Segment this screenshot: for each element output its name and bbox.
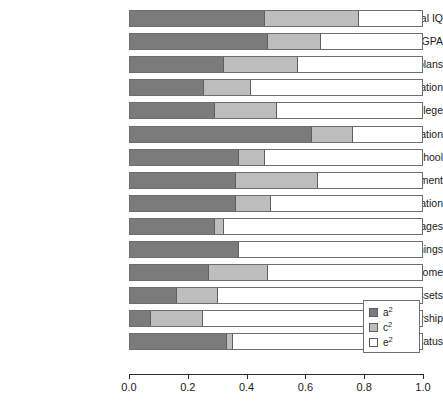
axis-tick: [188, 374, 189, 379]
bar-track: [129, 126, 423, 143]
bar-segment-c2: [268, 34, 321, 49]
legend-label: a2: [383, 308, 393, 318]
chart-legend: a2c2e2: [363, 300, 420, 353]
bar-segment-a2: [130, 103, 215, 118]
bar-track: [129, 149, 423, 166]
bar-segment-a2: [130, 334, 227, 349]
bar-segment-c2: [236, 173, 318, 188]
legend-label: e2: [383, 338, 393, 348]
bar-segment-a2: [130, 34, 268, 49]
bar-segment-a2: [130, 127, 312, 142]
bar-row: [129, 195, 423, 212]
bar-row: [129, 33, 423, 50]
bar-segment-c2: [239, 150, 265, 165]
bar-segment-a2: [130, 242, 239, 257]
bar-track: [129, 264, 423, 281]
bar-row: [129, 102, 423, 119]
axis-caption: [0, 402, 443, 412]
bar-row: [129, 56, 423, 73]
bar-segment-a2: [130, 173, 236, 188]
axis-tick-label: 0.6: [298, 381, 313, 393]
bar-segment-a2: [130, 196, 236, 211]
bar-row: [129, 10, 423, 27]
bar-track: [129, 10, 423, 27]
axis-tick: [423, 374, 424, 379]
x-axis-line: [129, 374, 423, 375]
legend-swatch-a2: [369, 308, 378, 317]
axis-tick: [129, 374, 130, 379]
bar-segment-a2: [130, 11, 265, 26]
bar-row: [129, 241, 423, 258]
bar-segment-c2: [177, 288, 218, 303]
bar-row: [129, 126, 423, 143]
bar-track: [129, 102, 423, 119]
bar-track: [129, 33, 423, 50]
bar-segment-a2: [130, 219, 215, 234]
bar-segment-c2: [209, 265, 268, 280]
bar-track: [129, 241, 423, 258]
legend-label: c2: [383, 323, 392, 333]
axis-tick: [247, 374, 248, 379]
bar-track: [129, 172, 423, 189]
bar-segment-c2: [227, 334, 233, 349]
bar-row: [129, 264, 423, 281]
bar-segment-c2: [236, 196, 271, 211]
axis-tick-label: 0.2: [180, 381, 195, 393]
axis-tick-label: 0.8: [357, 381, 372, 393]
bar-segment-c2: [204, 80, 251, 95]
legend-item: c2: [369, 320, 419, 335]
legend-item: a2: [369, 305, 419, 320]
legend-swatch-e2: [369, 338, 378, 347]
bar-segment-c2: [265, 11, 359, 26]
axis-tick-label: 0.4: [239, 381, 254, 393]
bar-segment-a2: [130, 57, 224, 72]
bar-segment-c2: [151, 311, 204, 326]
axis-tick-label: 1.0: [415, 381, 430, 393]
bar-segment-a2: [130, 265, 209, 280]
bar-track: [129, 218, 423, 235]
bar-segment-a2: [130, 288, 177, 303]
axis-tick: [305, 374, 306, 379]
bar-segment-c2: [215, 103, 277, 118]
bar-track: [129, 56, 423, 73]
bar-segment-a2: [130, 311, 151, 326]
axis-tick: [364, 374, 365, 379]
variance-decomposition-chart: Verbal IQGPACollege plansHS graduationSo…: [0, 0, 443, 412]
legend-swatch-c2: [369, 323, 378, 332]
bar-row: [129, 172, 423, 189]
bar-segment-c2: [215, 219, 224, 234]
bar-track: [129, 195, 423, 212]
bar-segment-a2: [130, 80, 204, 95]
bar-row: [129, 149, 423, 166]
bar-row: [129, 79, 423, 96]
bar-track: [129, 79, 423, 96]
bar-segment-c2: [312, 127, 353, 142]
bar-row: [129, 218, 423, 235]
axis-tick-label: 0.0: [121, 381, 136, 393]
bar-segment-a2: [130, 150, 239, 165]
legend-item: e2: [369, 335, 419, 350]
bar-segment-c2: [224, 57, 298, 72]
